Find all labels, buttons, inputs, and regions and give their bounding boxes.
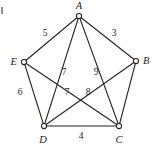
vertex-label-group: A B C D E [10, 0, 150, 145]
vertex-label-A: A [75, 0, 83, 11]
edge-weight-E-C: 7 [65, 87, 70, 97]
edge-A-E [24, 16, 79, 62]
edge-weight-A-E: 5 [43, 28, 48, 38]
vertex-label-B: B [143, 55, 150, 66]
edge-group [24, 16, 136, 126]
vertex-C [116, 123, 121, 128]
edge-weight-D-B: 8 [86, 87, 91, 97]
edge-weight-A-C: 9 [94, 67, 99, 77]
graph-canvas: A B C D E 5 3 7 9 7 8 6 4 [0, 0, 156, 147]
vertex-label-D: D [38, 134, 47, 145]
edge-weight-D-C: 4 [79, 131, 84, 141]
vertex-label-C: C [115, 134, 123, 145]
edge-E-C [24, 62, 119, 126]
vertex-label-E: E [10, 56, 18, 67]
page-edge-artifact [1, 7, 3, 14]
vertex-E [21, 59, 26, 64]
edge-weight-group: 5 3 7 9 7 8 6 4 [18, 28, 117, 141]
vertex-B [133, 58, 138, 63]
edge-weight-E-D: 6 [18, 87, 23, 97]
graph-figure: A B C D E 5 3 7 9 7 8 6 4 [0, 0, 156, 147]
edge-weight-A-D: 7 [62, 67, 67, 77]
vertex-A [76, 13, 81, 18]
edge-E-D [24, 62, 44, 126]
edge-weight-A-B: 3 [112, 28, 117, 38]
vertex-D [41, 123, 46, 128]
